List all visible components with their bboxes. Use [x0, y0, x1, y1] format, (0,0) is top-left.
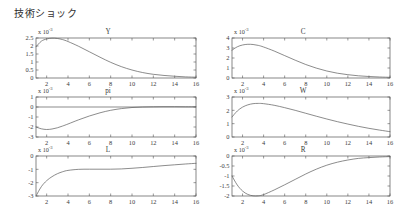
- page-title: 技術ショック: [14, 5, 77, 20]
- scale-annotation: x 10-3: [38, 86, 53, 93]
- x-tick-label: 8: [109, 198, 112, 205]
- x-tick-label: 10: [129, 198, 135, 205]
- series-line-l: [36, 163, 196, 196]
- y-tick-label: 0: [30, 103, 33, 110]
- axis-frame: [232, 97, 390, 137]
- y-tick-label: 0: [226, 74, 229, 81]
- chart-title: Y: [105, 28, 111, 36]
- scale-annotation: x 10-3: [38, 145, 53, 152]
- y-tick-label: -1: [28, 166, 33, 173]
- x-tick-label: 8: [304, 198, 307, 205]
- y-tick-label: 1: [30, 93, 33, 100]
- y-tick-label: 0: [30, 74, 33, 81]
- y-tick-label: -1.5: [219, 182, 229, 189]
- scale-annotation: x 10-3: [38, 27, 53, 34]
- y-tick-label: 0.5: [26, 66, 34, 73]
- chart-panel-pi: x 10-3pi10-1-2-3246810121416: [36, 97, 204, 145]
- y-tick-label: 3: [226, 44, 229, 51]
- y-tick-label: -3: [28, 133, 33, 140]
- x-tick-label: 10: [324, 198, 330, 205]
- series-line-c: [232, 44, 390, 77]
- x-tick-label: 12: [150, 198, 156, 205]
- y-tick-label: 3: [226, 93, 229, 100]
- chart-panel-c: x 10-3C01234246810121416: [232, 38, 398, 86]
- y-tick-label: 2.5: [26, 34, 34, 41]
- y-tick-label: -1: [224, 172, 229, 179]
- scale-annotation: x 10-3: [234, 145, 249, 152]
- y-tick-label: 2: [30, 42, 33, 49]
- y-tick-label: -2: [224, 192, 229, 199]
- y-tick-label: -1: [28, 113, 33, 120]
- chart-title: L: [106, 146, 110, 154]
- x-tick-label: 4: [66, 198, 70, 205]
- chart-title: C: [301, 28, 306, 36]
- x-tick-label: 14: [171, 198, 178, 205]
- axis-frame: [36, 38, 196, 78]
- axis-frame: [232, 38, 390, 78]
- axis-frame: [36, 156, 196, 196]
- y-tick-label: 2: [226, 54, 229, 61]
- impulse-response-figure: 技術ショック x 10-3Y00.511.522.5246810121416x …: [0, 0, 400, 220]
- chart-panel-r: x 10-3R0-0.5-1-1.5-2246810121416: [232, 156, 398, 204]
- y-tick-label: 2: [226, 107, 229, 114]
- chart-panel-w: x 10-3W0123246810121416: [232, 97, 398, 145]
- axis-frame: [232, 156, 390, 196]
- series-line-pi: [36, 107, 196, 130]
- y-tick-label: 0: [30, 152, 33, 159]
- chart-title: W: [300, 87, 307, 95]
- chart-panel-y: x 10-3Y00.511.522.5246810121416: [36, 38, 204, 86]
- y-tick-label: 4: [226, 34, 230, 41]
- x-tick-label: 14: [366, 198, 373, 205]
- scale-annotation: x 10-3: [234, 27, 249, 34]
- x-tick-label: 2: [241, 198, 244, 205]
- x-tick-label: 12: [345, 198, 351, 205]
- chart-title: pi: [105, 87, 111, 95]
- series-line-r: [232, 157, 390, 196]
- y-tick-label: 1.5: [26, 50, 34, 57]
- y-tick-label: 1: [226, 64, 229, 71]
- x-tick-label: 2: [45, 198, 48, 205]
- y-tick-label: 0: [226, 133, 229, 140]
- y-tick-label: -3: [28, 192, 33, 199]
- y-tick-label: 1: [226, 120, 229, 127]
- series-line-y: [36, 38, 196, 77]
- x-tick-label: 6: [283, 198, 286, 205]
- scale-annotation: x 10-3: [234, 86, 249, 93]
- x-tick-label: 16: [387, 198, 393, 205]
- x-tick-label: 16: [193, 198, 199, 205]
- y-tick-label: 1: [30, 58, 33, 65]
- chart-panel-l: x 10-3L0-1-2-3246810121416: [36, 156, 204, 204]
- axis-frame: [36, 97, 196, 137]
- y-tick-label: -2: [28, 123, 33, 130]
- y-tick-label: -0.5: [219, 162, 229, 169]
- x-tick-label: 4: [262, 198, 266, 205]
- chart-title: R: [301, 146, 306, 154]
- y-tick-label: -2: [28, 179, 33, 186]
- y-tick-label: 0: [226, 152, 229, 159]
- series-line-w: [232, 103, 390, 131]
- x-tick-label: 6: [88, 198, 91, 205]
